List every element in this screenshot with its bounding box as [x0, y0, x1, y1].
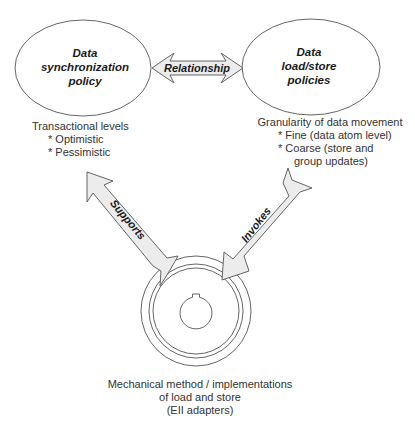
load-store-title-line-1: Data [297, 46, 323, 58]
relationship-label: Relationship [164, 62, 230, 74]
sync-notes-line-3: * Pessimistic [48, 146, 111, 158]
mechanism-notes: Mechanical method / implementations of l… [108, 378, 293, 416]
load-store-notes-line-4: group updates) [294, 155, 368, 167]
load-store-notes: Granularity of data movement * Fine (dat… [258, 116, 403, 167]
load-store-title-line-2: load/store [282, 60, 338, 72]
invokes-arrow [222, 168, 312, 280]
sync-notes-line-2: * Optimistic [48, 133, 104, 145]
mechanism-inner-ring [153, 268, 239, 354]
sync-policy-title-line-2: synchronization [41, 61, 129, 73]
sync-policy-title-line-3: policy [67, 75, 102, 87]
load-store-title-line-3: policies [287, 74, 331, 86]
mechanism-keyhole-icon [180, 294, 212, 329]
edge-invokes: Invokes [222, 168, 312, 280]
node-load-store: Data load/store policies [242, 19, 380, 115]
node-sync-policy: Data synchronization policy [15, 20, 151, 116]
diagram-canvas: Data synchronization policy Data load/st… [0, 0, 415, 427]
edge-supports: Supports [87, 172, 178, 286]
sync-policy-title-line-1: Data [73, 47, 99, 59]
load-store-notes-line-1: Granularity of data movement [258, 116, 403, 128]
sync-notes-line-1: Transactional levels [32, 120, 129, 132]
mechanism-notes-line-2: of load and store [159, 391, 241, 403]
mechanism-notes-line-3: (EII adapters) [167, 404, 234, 416]
load-store-notes-line-3: * Coarse (store and [278, 142, 373, 154]
sync-policy-notes: Transactional levels * Optimistic * Pess… [32, 120, 129, 158]
load-store-notes-line-2: * Fine (data atom level) [278, 129, 392, 141]
edge-relationship: Relationship [152, 53, 243, 83]
mechanism-notes-line-1: Mechanical method / implementations [108, 378, 293, 390]
